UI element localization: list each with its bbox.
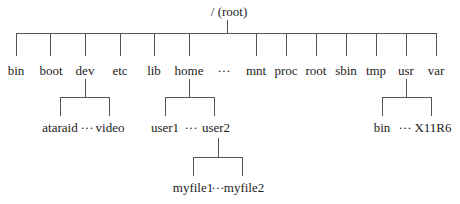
node-myfile1: myfile1: [173, 181, 213, 195]
node-home: home: [175, 64, 204, 78]
node-etc: etc: [112, 64, 127, 78]
node-dev-ellipsis: ···: [81, 121, 94, 135]
node-usr: usr: [398, 64, 414, 78]
node-lib: lib: [147, 64, 161, 78]
node-ellipsis: ···: [218, 64, 231, 78]
node-boot: boot: [39, 64, 62, 78]
node-usr-ellipsis: ···: [399, 121, 412, 135]
node-root-dir: root: [306, 64, 327, 78]
node-home-ellipsis: ···: [185, 121, 198, 135]
node-usr-bin: bin: [374, 121, 391, 135]
node-x11r6: X11R6: [414, 121, 451, 135]
node-bin: bin: [8, 64, 25, 78]
node-sbin: sbin: [335, 64, 357, 78]
node-user2: user2: [202, 121, 230, 135]
node-root: / (root): [211, 5, 247, 19]
node-dev: dev: [76, 64, 95, 78]
node-mnt: mnt: [246, 64, 266, 78]
directory-tree-diagram: / (root) bin boot dev etc lib home ··· m…: [0, 0, 460, 204]
node-myfile2: myfile2: [224, 181, 264, 195]
node-ataraid: ataraid: [42, 121, 77, 135]
node-var: var: [428, 64, 445, 78]
node-user1: user1: [151, 121, 179, 135]
node-user2-ellipsis: ···: [212, 181, 225, 195]
node-video: video: [96, 121, 125, 135]
node-tmp: tmp: [366, 64, 386, 78]
node-proc: proc: [274, 64, 297, 78]
tree-connectors: [0, 0, 460, 204]
